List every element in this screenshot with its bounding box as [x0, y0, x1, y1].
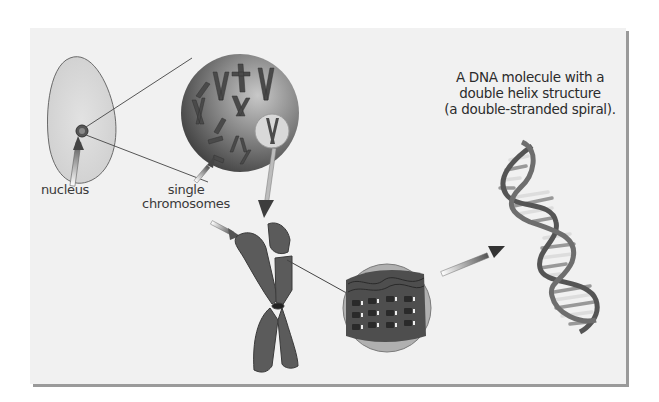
chromosome [235, 223, 298, 372]
helix-arrow-icon [441, 246, 505, 276]
dna-caption-line2: double helix structure [432, 85, 628, 101]
dna-double-helix [500, 142, 597, 332]
cell [47, 57, 115, 184]
chromosome-arm-arrow-icon [210, 221, 240, 240]
dna-structure-illustration [0, 0, 659, 402]
dna-caption-line3: (a double-stranded spiral). [432, 101, 628, 117]
single-chromosomes-label: single chromosomes [138, 183, 234, 211]
zoom-line-chromatin [287, 260, 352, 296]
single-chromosomes-label-line1: single [138, 183, 234, 197]
dna-caption: A DNA molecule with a double helix struc… [432, 69, 628, 117]
single-chromosomes-label-line2: chromosomes [138, 197, 234, 211]
nucleus-label: nucleus [38, 183, 92, 197]
magnified-nucleus [181, 54, 299, 172]
dna-caption-line1: A DNA molecule with a [432, 69, 628, 85]
chromatin-magnified [343, 264, 431, 352]
